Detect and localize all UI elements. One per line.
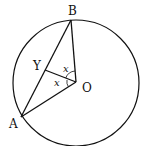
angle-label-lower: x [54,77,60,88]
label-point-A: A [8,117,18,131]
label-point-B: B [68,4,77,18]
radius-OB [71,20,76,82]
angle-arc-lower [67,80,69,87]
geometry-diagram: B A O Y x x [0,0,145,146]
angle-label-upper: x [63,63,69,74]
label-point-Y: Y [32,59,42,73]
circle [13,20,139,146]
radius-OA [21,82,76,117]
label-point-O: O [82,81,92,95]
